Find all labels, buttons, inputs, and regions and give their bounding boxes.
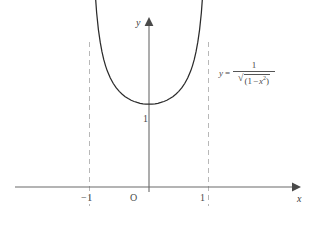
equation-radical: √ (1−x2) [238,73,270,86]
origin-label: O [130,193,138,203]
function-graph-figure: y x O −1 1 1 y = 1 √ (1−x2) [0,0,312,241]
x-axis-arrowhead [292,183,301,192]
equation-fraction: 1 √ (1−x2) [233,60,275,86]
equation-equals-sign: = [225,68,230,78]
y-axis-arrowhead [145,17,154,26]
plot-canvas [0,0,312,241]
equation-denominator: √ (1−x2) [236,72,272,86]
radicand-minus: − [253,76,258,86]
y-axis-label: y [136,18,140,28]
x-tick-label-one: 1 [200,193,206,203]
equation-numerator: 1 [248,60,261,71]
radicand-open: (1 [245,76,253,86]
equation-lhs: y [219,68,223,78]
function-equation-label: y = 1 √ (1−x2) [219,60,275,86]
x-tick-label-minus-one: −1 [81,193,93,203]
radicand-close: ) [266,76,269,86]
equation-radicand: (1−x2) [244,74,271,86]
y-tick-label-one: 1 [143,114,149,124]
x-axis-label: x [297,194,301,204]
